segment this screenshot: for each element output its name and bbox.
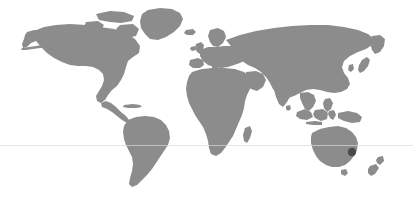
landmass-borneo xyxy=(313,109,328,121)
landmass-new-zealand-north xyxy=(376,156,384,165)
landmass-kamchatka xyxy=(370,35,385,54)
landmass-sulawesi xyxy=(328,110,336,120)
landmass-iberia xyxy=(189,58,204,68)
landmass-korea xyxy=(348,64,354,72)
landmass-tasmania xyxy=(341,169,348,176)
landmass-south-america xyxy=(123,116,170,187)
landmass-sumatra xyxy=(296,109,313,120)
landmass-indochina xyxy=(300,92,316,111)
landmasses-group xyxy=(21,8,385,187)
landmass-java xyxy=(306,121,322,125)
world-map-svg xyxy=(0,0,413,202)
landmass-central-america xyxy=(101,101,129,123)
landmass-new-guinea xyxy=(338,111,362,123)
landmass-australia xyxy=(311,126,358,167)
landmass-ireland xyxy=(190,46,196,51)
landmass-sri-lanka xyxy=(286,105,291,111)
location-markers-group xyxy=(348,148,356,156)
landmass-north-america xyxy=(33,24,140,103)
landmass-scandinavia xyxy=(208,28,226,47)
landmass-caribbean xyxy=(123,104,142,108)
landmass-iceland xyxy=(184,29,196,35)
landmass-madagascar xyxy=(243,126,252,143)
landmass-philippines xyxy=(323,98,333,112)
landmass-greenland xyxy=(140,8,183,40)
landmass-africa xyxy=(186,68,252,156)
marker-sydney[interactable] xyxy=(348,148,356,156)
landmass-new-zealand-south xyxy=(368,164,379,176)
landmass-canadian-arctic xyxy=(96,11,134,23)
world-map-figure xyxy=(0,0,413,202)
landmass-japan xyxy=(358,57,370,73)
landmass-india xyxy=(274,80,294,107)
